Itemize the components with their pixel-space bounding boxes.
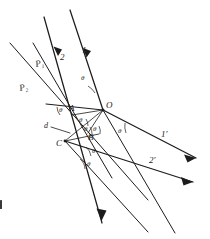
p1-subscript: 1	[41, 63, 45, 69]
point-c-label: C	[56, 138, 63, 148]
distance-d-label: d	[44, 121, 49, 130]
theta-top-o-label: θ	[81, 74, 85, 82]
theta-a-lower2-label: θ	[84, 125, 88, 133]
ray-2-label: 2	[60, 52, 65, 62]
point-a-label: A	[68, 103, 75, 113]
ray-2-prime-label: 2'	[149, 155, 157, 165]
wavefront-p2-label: P2	[17, 81, 29, 94]
ray-1-prime-label: 1'	[161, 129, 169, 139]
point-b-label: B	[88, 132, 94, 142]
point-o-label: O	[106, 100, 113, 110]
theta-c-lower2-label: θ	[87, 160, 91, 168]
p2-subscript: 2	[25, 87, 29, 93]
theta-right-o-label: θ	[118, 127, 122, 135]
ray-diagram-figure: 1 2 1' 2' P1 P2 O A B C d θ θ θ θ θ θ θ …	[0, 0, 210, 239]
ray-1-label: 1	[82, 45, 87, 55]
theta-left-a-label: θ	[59, 106, 63, 114]
theta-c-lower-label: θ	[92, 147, 96, 155]
theta-b-upper-label: θ	[93, 125, 97, 133]
theta-a-lower-label: θ	[79, 116, 83, 124]
label-layer: 1 2 1' 2' P1 P2 O A B C d θ θ θ θ θ θ θ …	[0, 0, 210, 239]
wavefront-p1-label: P1	[33, 57, 45, 70]
